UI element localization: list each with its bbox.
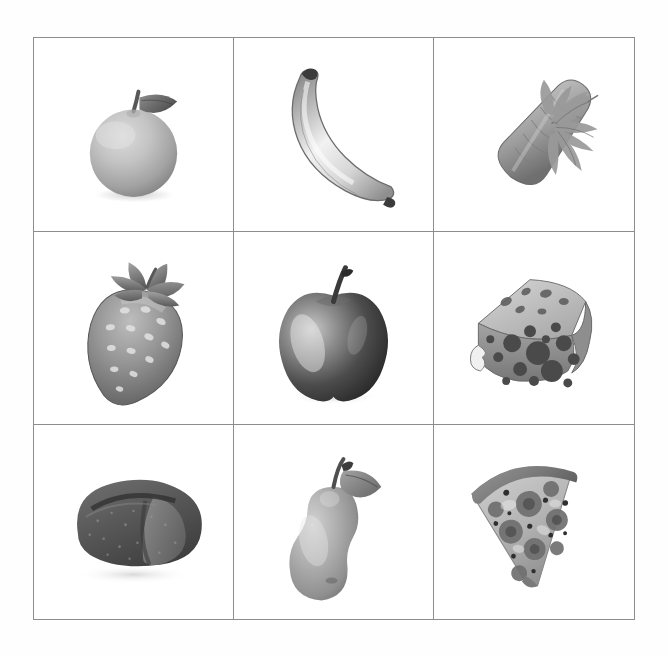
grid-cell-pizza[interactable]: pizza [434,425,634,619]
orange-fruit-icon [34,38,233,231]
grid-cell-bread[interactable]: bread [34,425,234,619]
grid-cell-strawberry[interactable]: strawberry [34,232,234,426]
banana-icon [234,38,433,231]
food-grid: orange [33,37,635,620]
bread-loaf-icon [34,425,233,619]
pizza-slice-icon [434,425,634,619]
grid-cell-banana[interactable]: banana [234,38,434,232]
pear-icon [234,425,433,619]
grid-cell-apple[interactable]: apple [234,232,434,426]
grid-cell-cheese[interactable]: cheese [434,232,634,426]
carrot-icon [434,38,634,231]
grid-cell-pear[interactable]: pear [234,425,434,619]
strawberry-icon [34,232,233,425]
apple-icon [234,232,433,425]
cheese-wedge-icon [434,232,634,425]
grid-cell-carrot[interactable]: carrot [434,38,634,232]
image-canvas: orange [0,0,668,656]
grid-cell-orange[interactable]: orange [34,38,234,232]
